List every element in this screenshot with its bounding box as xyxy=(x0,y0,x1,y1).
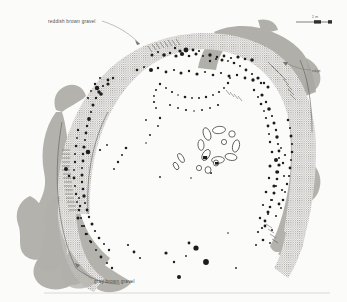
site-plan-figure: reddish brown gravel gray brown gravel e… xyxy=(0,0,347,302)
site-plan-svg: reddish brown gravel gray brown gravel e… xyxy=(0,0,347,302)
label-edge: edge xyxy=(312,69,321,73)
label-gray-brown-gravel: gray brown gravel xyxy=(94,279,135,284)
scale-bar-block xyxy=(314,20,321,23)
label-reddish-brown-gravel: reddish brown gravel xyxy=(48,19,96,24)
scale-bar-block-end xyxy=(328,20,332,23)
scale-bar-label: 2 m xyxy=(312,15,318,19)
